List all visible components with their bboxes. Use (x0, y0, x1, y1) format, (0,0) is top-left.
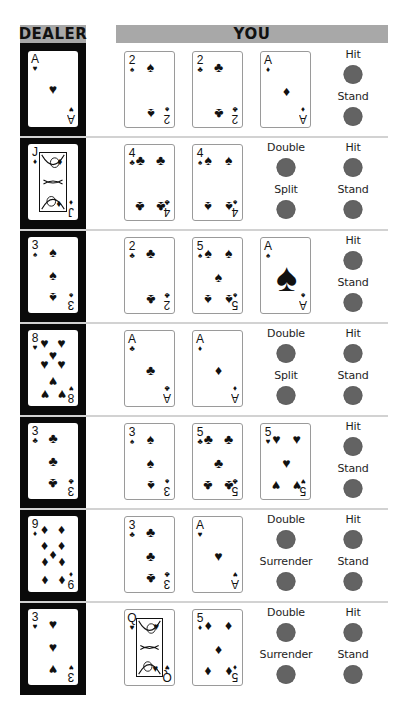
stand-button[interactable] (344, 293, 363, 312)
player-card-2-of-spades: 2♠2♠♠♠ (124, 51, 175, 128)
spade-icon: ♠ (144, 432, 158, 446)
spade-icon: ♠ (46, 291, 60, 305)
stand-label: Stand (318, 183, 388, 196)
stand-button[interactable] (344, 572, 363, 591)
double-button[interactable] (277, 158, 296, 177)
card-index: A♣ (127, 334, 137, 353)
hand-row: 3♥3♥♥♥♥Q♥Q♥♥♥5♦5♦♦♦♦♦♦DoubleHitSurrender… (0, 602, 405, 695)
diamond-icon: ♦ (280, 84, 294, 98)
dealer-card-3-of-clubs: 3♣3♣♣♣♣ (28, 423, 78, 499)
diamond-icon: ♦ (38, 574, 52, 588)
card-index: A♥ (30, 54, 40, 73)
hand-row: 3♠3♠♠♠♠2♣2♣♣♣5♠5♠♠♠♠♠♠A♠A♠♠HitStand (0, 230, 405, 323)
double-button[interactable] (277, 530, 296, 549)
stand-button[interactable] (344, 107, 363, 126)
heart-icon: ♥ (55, 357, 69, 371)
stand-button[interactable] (344, 200, 363, 219)
diamond-icon: ♦ (55, 556, 69, 570)
hand-row: 9♦9♦♦♦♦♦♦♦♦♦♦3♣3♣♣♣♣A♥A♥♥DoubleHitSurren… (0, 509, 405, 602)
surrender-button[interactable] (277, 572, 296, 591)
double-button[interactable] (277, 623, 296, 642)
card-rank: A (231, 577, 239, 591)
split-label: Split (251, 369, 321, 382)
heart-icon: ♥ (195, 531, 205, 539)
spade-icon: ♠ (201, 153, 215, 167)
spade-icon: ♠ (222, 200, 236, 214)
card-index: A♦ (195, 334, 205, 353)
dealer-card-j-of-diamonds: J♦J♦♦♦ (28, 144, 78, 220)
spade-icon: ♠ (46, 268, 60, 282)
card-index: A♣ (162, 384, 172, 403)
spade-icon: ♠ (222, 246, 236, 260)
svg-text:♦: ♦ (57, 198, 62, 210)
spade-icon: ♠ (212, 270, 226, 284)
club-icon: ♣ (201, 432, 215, 446)
hit-label: Hit (318, 327, 388, 340)
card-rank: J (68, 205, 74, 219)
spade-icon: ♠ (127, 438, 137, 446)
hit-label: Hit (318, 606, 388, 619)
card-index: 2♣ (162, 291, 172, 310)
club-icon: ♣ (212, 456, 226, 470)
player-card-a-of-clubs: A♣A♣♣ (124, 330, 175, 407)
card-rank: A (299, 298, 307, 312)
double-label: Double (251, 513, 321, 526)
you-header: YOU (116, 25, 388, 43)
hit-button[interactable] (344, 65, 363, 84)
club-icon: ♣ (195, 66, 205, 74)
spade-icon: ♠ (201, 246, 215, 260)
card-index: 3♣ (66, 477, 76, 496)
hit-button[interactable] (344, 344, 363, 363)
diamond-icon: ♦ (38, 556, 52, 570)
diamond-icon: ♦ (222, 665, 236, 679)
hit-label: Hit (318, 513, 388, 526)
card-rank: 2 (164, 298, 171, 312)
double-label: Double (251, 327, 321, 340)
card-index: 2♣ (195, 55, 205, 74)
hit-button[interactable] (344, 251, 363, 270)
card-index: A♥ (230, 570, 240, 589)
hit-button[interactable] (344, 530, 363, 549)
surrender-button[interactable] (277, 665, 296, 684)
player-card-3-of-clubs: 3♣3♣♣♣♣ (124, 516, 175, 593)
dealer-card-3-of-spades: 3♠3♠♠♠♠ (28, 237, 78, 313)
heart-icon: ♥ (46, 640, 60, 654)
club-icon: ♣ (66, 477, 76, 485)
hit-button[interactable] (344, 437, 363, 456)
club-icon: ♣ (212, 60, 226, 74)
heart-icon: ♥ (269, 479, 283, 493)
diamond-icon: ♦ (201, 665, 215, 679)
card-index: 3♠ (127, 427, 137, 446)
club-icon: ♣ (127, 345, 137, 353)
player-card-5-of-spades: 5♠5♠♠♠♠♠♠ (192, 237, 243, 314)
player-card-5-of-diamonds: 5♦5♦♦♦♦♦♦ (192, 609, 243, 686)
player-card-5-of-hearts: 5♥5♥♥♥♥♥♥ (260, 423, 311, 500)
card-rank: 3 (164, 577, 171, 591)
stand-button[interactable] (344, 665, 363, 684)
heart-icon: ♥ (46, 663, 60, 677)
hit-button[interactable] (344, 623, 363, 642)
double-button[interactable] (277, 344, 296, 363)
stand-button[interactable] (344, 479, 363, 498)
split-button[interactable] (277, 386, 296, 405)
split-button[interactable] (277, 200, 296, 219)
card-rank: 3 (68, 298, 75, 312)
club-icon: ♣ (144, 293, 158, 307)
heart-icon: ♥ (290, 432, 304, 446)
dealer-card-3-of-hearts: 3♥3♥♥♥♥ (28, 609, 78, 685)
card-rank: 3 (164, 484, 171, 498)
club-icon: ♣ (201, 479, 215, 493)
player-card-a-of-spades: A♠A♠♠ (260, 237, 311, 314)
stand-button[interactable] (344, 386, 363, 405)
hit-button[interactable] (344, 158, 363, 177)
diamond-icon: ♦ (222, 618, 236, 632)
spade-icon: ♠ (222, 153, 236, 167)
heart-icon: ♥ (30, 65, 40, 73)
club-icon: ♣ (46, 454, 60, 468)
club-icon: ♣ (222, 432, 236, 446)
card-index: 3♣ (127, 520, 137, 539)
card-index: J♦ (66, 198, 76, 217)
player-card-4-of-clubs: 4♣4♣♣♣♣♣ (124, 144, 175, 221)
court-figure-j: ♦♦ (39, 152, 67, 212)
spade-icon: ♠ (46, 245, 60, 259)
